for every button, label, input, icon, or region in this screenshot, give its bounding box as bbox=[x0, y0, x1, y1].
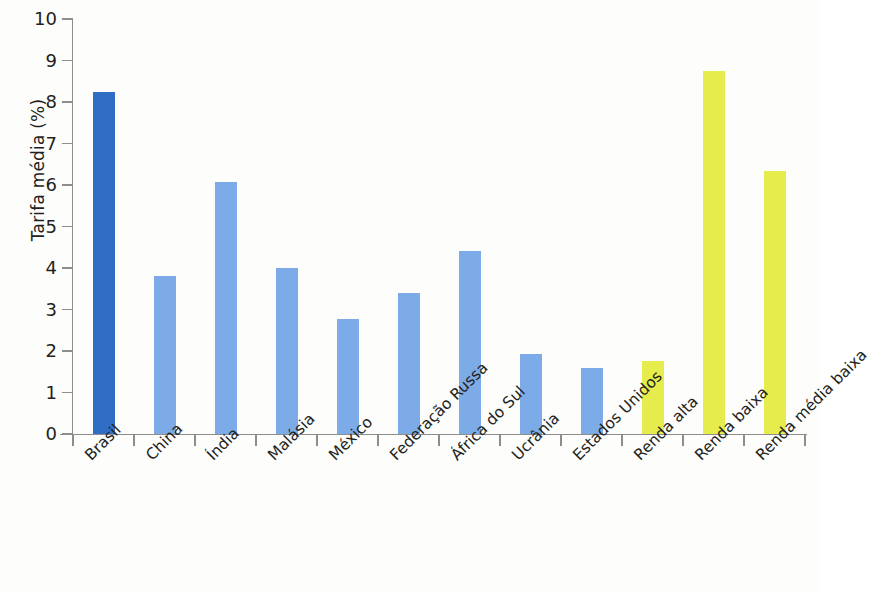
bar-renda-média-baixa bbox=[764, 171, 786, 434]
x-axis-tick bbox=[438, 434, 439, 446]
x-axis-tick bbox=[560, 434, 561, 446]
y-axis-tick-label: 10 bbox=[34, 10, 57, 28]
bar-federação-russa bbox=[398, 293, 420, 435]
y-axis-tick-label: 3 bbox=[46, 301, 57, 319]
y-axis-ticks: 012345678910 bbox=[0, 0, 73, 453]
bar-índia bbox=[215, 182, 237, 434]
y-axis-tick-label: 2 bbox=[46, 342, 57, 360]
y-axis-tick-label: 8 bbox=[46, 93, 57, 111]
x-axis-tick bbox=[499, 434, 500, 446]
x-axis-tick bbox=[255, 434, 256, 446]
y-axis-tick-label: 1 bbox=[46, 384, 57, 402]
x-axis-tick bbox=[316, 434, 317, 446]
y-axis-tick-label: 9 bbox=[46, 52, 57, 70]
bar-méxico bbox=[337, 319, 359, 434]
bar-ucrânia bbox=[520, 354, 542, 434]
y-axis-tick-label: 7 bbox=[46, 135, 57, 153]
plot-area bbox=[73, 19, 805, 434]
y-axis-tick-label: 6 bbox=[46, 176, 57, 194]
x-axis-tick bbox=[377, 434, 378, 446]
x-axis-tick bbox=[743, 434, 744, 446]
bar-malásia bbox=[276, 268, 298, 434]
y-axis-tick-label: 5 bbox=[46, 218, 57, 236]
x-axis-tick bbox=[194, 434, 195, 446]
y-axis-tick-label: 4 bbox=[46, 259, 57, 277]
y-axis-tick-label: 0 bbox=[46, 425, 57, 443]
bar-renda-baixa bbox=[703, 71, 725, 434]
x-axis-tick bbox=[621, 434, 622, 446]
bar-áfrica-do-sul bbox=[459, 251, 481, 434]
bar-china bbox=[154, 276, 176, 434]
x-axis-tick bbox=[72, 434, 73, 446]
x-axis-tick bbox=[682, 434, 683, 446]
bar-brasil bbox=[93, 92, 115, 434]
bar-estados-unidos bbox=[581, 368, 603, 434]
bar-renda-alta bbox=[642, 361, 664, 434]
x-axis-tick bbox=[804, 434, 805, 446]
x-axis-tick bbox=[133, 434, 134, 446]
